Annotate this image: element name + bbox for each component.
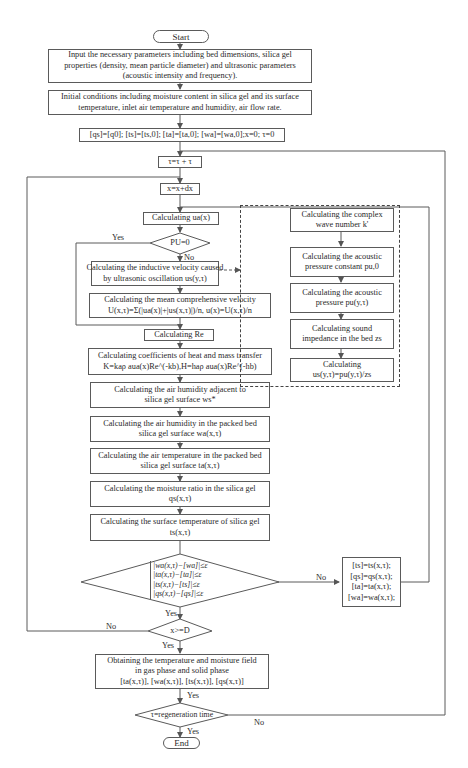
input-line-3: (acoustic intensity and frequency).	[123, 71, 238, 82]
air-temperature-line-2: silica gel surface ta(x,τ)	[141, 461, 220, 472]
initial-line-2: temperature, inlet air temperature and h…	[78, 103, 281, 114]
inductive-line-1: Calculating the inductive velocity cause…	[87, 263, 224, 274]
calc-ua-box: Calculating ua(x)	[143, 212, 219, 225]
subprocess-step-wave-number: Calculating the complex wave number k'	[290, 208, 394, 232]
decision-pu-text: PU=0	[160, 238, 200, 248]
input-parameters-box: Input the necessary parameters including…	[48, 49, 312, 83]
decision-x-text: x>=D	[160, 626, 200, 636]
time-step-text: τ=τ + τ	[168, 157, 192, 168]
calc-surface-temperature-box: Calculating the surface temperature of s…	[90, 514, 270, 541]
calc-air-temperature-box: Calculating the air temperature in the p…	[90, 448, 270, 474]
calc-re-text: Calculating Re	[154, 330, 204, 341]
initial-line-1: Initial conditions including moisture co…	[61, 92, 299, 103]
surface-temperature-line-1: Calculating the surface temperature of s…	[101, 517, 260, 528]
convergence-check-text: |wa(x,τ)−[wa]|≤ε |ta(x,τ)−[ta]|≤ε |ts(x,…	[150, 561, 208, 599]
moisture-ratio-line-1: Calculating the moisture ratio in the si…	[104, 484, 255, 495]
acoustic-pressure-line-1: Calculating the acoustic	[302, 288, 382, 299]
induced-velocity-line-2: us(y,τ)=pu(y,τ)/zs	[313, 370, 372, 381]
humidity-adjacent-line-1: Calculating the air humidity adjacent to	[114, 385, 246, 396]
mean-velocity-line-1: Calculating the mean comprehensive veloc…	[104, 295, 256, 306]
wave-number-line-2: wave number k'	[316, 220, 369, 231]
induced-velocity-line-1: Calculating	[323, 360, 361, 371]
convergence-line-2: |ta(x,τ)−[ta]|≤ε	[153, 570, 208, 579]
coefficients-line-2: K=kaρ aua(x)Re^(-kb),H=haρ aua(x)Re^(-hb…	[103, 362, 256, 373]
calc-re-box: Calculating Re	[144, 329, 214, 341]
start-terminator: Start	[153, 30, 209, 43]
mean-velocity-line-2: U(x,τ)=Σ(|ua(x)|+|us(x,τ)|)/n, u(x)=U(x,…	[108, 306, 252, 317]
decision-regen-yes-label: Yes	[187, 727, 199, 737]
initial-conditions-box: Initial conditions including moisture co…	[48, 90, 312, 115]
subprocess-step-sound-impedance: Calculating sound impedance in the bed z…	[290, 319, 394, 349]
air-humidity-line-2: silica gel surface wa(x,τ)	[139, 429, 222, 440]
initialization-text: [qs]=[q0]; [ts]=[ts,0]; [ta]=[ta,0]; [wa…	[90, 130, 275, 141]
surface-temperature-line-2: ts(x,τ)	[170, 528, 191, 539]
moisture-ratio-line-2: qs(x,τ)	[169, 494, 191, 505]
air-temperature-line-1: Calculating the air temperature in the p…	[98, 451, 261, 462]
obtain-line-1: Obtaining the temperature and moisture f…	[107, 656, 257, 667]
space-step-box: x=x+dx	[160, 183, 200, 195]
convergence-line-3: |ts(x,τ)−[ts]|≤ε	[153, 580, 208, 589]
subprocess-step-acoustic-pressure: Calculating the acoustic pressure pu(y,τ…	[290, 283, 394, 313]
subprocess-step-induced-velocity: Calculating us(y,τ)=pu(y,τ)/zs	[290, 358, 394, 382]
obtain-fields-box: Obtaining the temperature and moisture f…	[95, 654, 269, 689]
inductive-line-2: by ultrasonic oscillation us(y,τ)	[103, 274, 207, 285]
pressure-constant-line-2: pressure constant pu,0	[305, 262, 379, 273]
obtain-line-2: in gas phase and solid phase	[135, 666, 229, 677]
update-line-3: [ta]=ta(x,τ);	[352, 582, 392, 593]
decision-x-yes-label: Yes	[162, 641, 174, 651]
calc-ua-text: Calculating ua(x)	[152, 213, 210, 224]
decision-x-no-label: No	[106, 622, 116, 632]
wave-number-line-1: Calculating the complex	[301, 210, 382, 221]
sound-impedance-line-1: Calculating sound	[312, 324, 372, 335]
calc-moisture-ratio-box: Calculating the moisture ratio in the si…	[90, 481, 270, 507]
initialization-box: [qs]=[q0]; [ts]=[ts,0]; [ta]=[ta,0]; [wa…	[79, 128, 285, 142]
calc-air-humidity-box: Calculating the air humidity in the pack…	[90, 416, 270, 442]
update-line-1: [ts]=ts(x,τ);	[352, 561, 391, 572]
decision-regen-text: τ=regeneration time	[140, 710, 224, 720]
end-terminator: End	[163, 737, 200, 749]
input-line-1: Input the necessary parameters including…	[68, 50, 292, 61]
acoustic-pressure-line-2: pressure pu(y,τ)	[316, 298, 369, 309]
update-line-2: [qs]=qs(x,τ);	[350, 572, 392, 583]
subprocess-step-pressure-constant: Calculating the acoustic pressure consta…	[290, 247, 394, 277]
space-step-text: x=x+dx	[167, 184, 193, 195]
sound-impedance-line-2: impedance in the bed zs	[302, 334, 382, 345]
convergence-line-4: |qs(x,τ)−[qs]|≤ε	[153, 589, 208, 598]
pressure-constant-line-1: Calculating the acoustic	[302, 252, 382, 263]
obtain-line-3: [ta(x,τ)], [wa(x,τ)], [ts(x,τ)], [qs(x,τ…	[120, 677, 243, 688]
decision-regen-no-label: No	[254, 718, 264, 728]
update-values-box: [ts]=ts(x,τ); [qs]=qs(x,τ); [ta]=ta(x,τ)…	[342, 557, 401, 607]
air-humidity-line-1: Calculating the air humidity in the pack…	[103, 419, 257, 430]
decision-pu-yes-label: Yes	[112, 233, 124, 243]
coefficients-line-1: Calculating coefficients of heat and mas…	[98, 351, 262, 362]
update-line-4: [wa]=wa(x,τ);	[348, 593, 395, 604]
calc-inductive-velocity-box: Calculating the inductive velocity cause…	[91, 261, 219, 286]
humidity-adjacent-line-2: silica gel surface ws*	[144, 395, 215, 406]
convergence-yes-label: Yes	[165, 609, 177, 619]
convergence-line-1: |wa(x,τ)−[wa]|≤ε	[153, 561, 208, 570]
convergence-no-label: No	[316, 573, 326, 583]
obtain-yes-label: Yes	[187, 691, 199, 701]
input-line-2: properties (density, mean particle diame…	[64, 61, 296, 72]
time-step-box: τ=τ + τ	[158, 156, 202, 168]
